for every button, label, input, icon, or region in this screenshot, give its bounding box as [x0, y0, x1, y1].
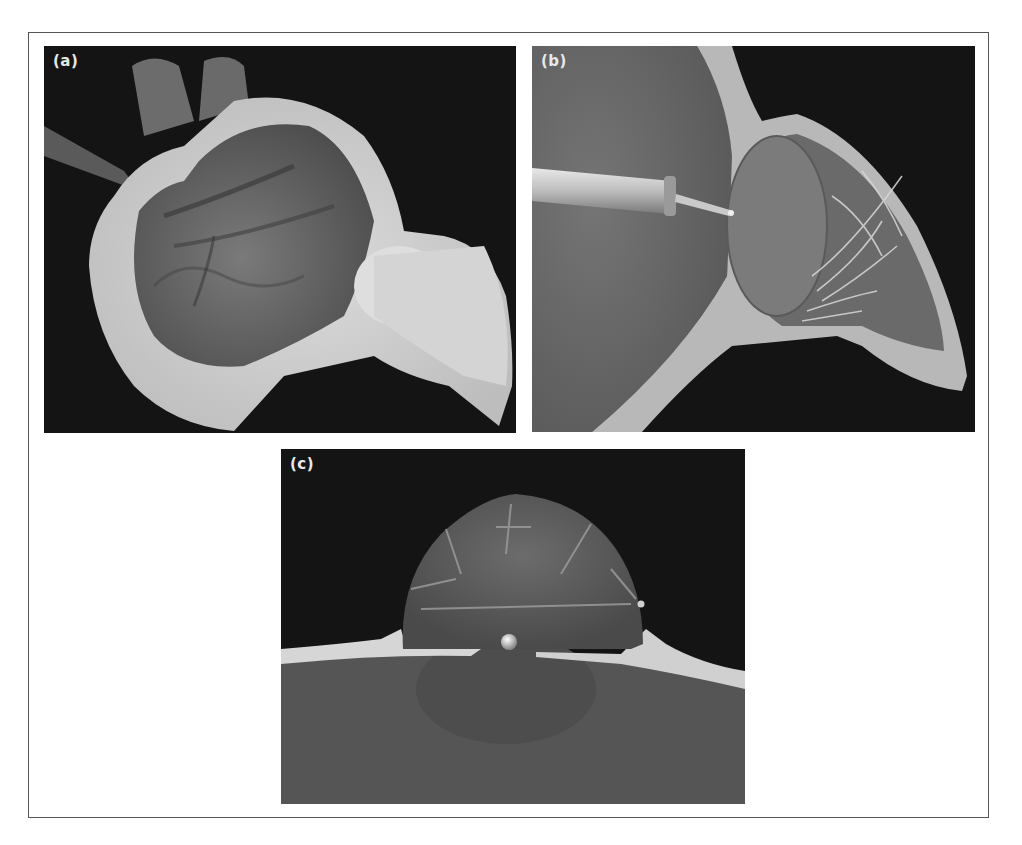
panel-b: (b) — [532, 46, 975, 432]
panel-a: (a) — [44, 46, 516, 433]
valve-closeup-illustration — [281, 449, 745, 804]
catheter-valve-illustration — [532, 46, 975, 432]
panel-c: (c) — [281, 449, 745, 804]
panel-a-label: (a) — [53, 52, 78, 70]
heart-cutaway-illustration — [44, 46, 516, 433]
panel-b-label: (b) — [541, 52, 567, 70]
panel-c-label: (c) — [290, 455, 314, 473]
